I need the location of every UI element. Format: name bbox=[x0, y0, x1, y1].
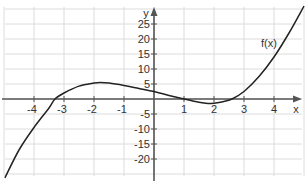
y-tick-label: 20 bbox=[138, 33, 150, 45]
y-tick-label: 15 bbox=[138, 48, 150, 60]
y-axis-arrow-icon bbox=[151, 7, 158, 16]
x-axis-label: x bbox=[293, 103, 299, 115]
x-tick-label: 3 bbox=[241, 103, 247, 115]
x-tick-label: -1 bbox=[117, 103, 127, 115]
curve-label: f(x) bbox=[261, 37, 277, 49]
x-axis-arrow-icon bbox=[293, 96, 302, 103]
y-tick-label: -10 bbox=[134, 123, 150, 135]
y-tick-label: -20 bbox=[134, 153, 150, 165]
y-tick-label: 5 bbox=[144, 78, 150, 90]
y-tick-label: -5 bbox=[140, 108, 150, 120]
x-tick-label: -3 bbox=[57, 103, 67, 115]
x-tick-label: 1 bbox=[181, 103, 187, 115]
x-tick-label: 2 bbox=[211, 103, 217, 115]
function-graph: x y -4-3-2-11234 252015105-5-10-15-20 f(… bbox=[0, 0, 306, 181]
y-tick-label: 25 bbox=[138, 18, 150, 30]
x-tick-label: 4 bbox=[271, 103, 277, 115]
x-tick-label: -2 bbox=[87, 103, 97, 115]
y-tick-label: -15 bbox=[134, 138, 150, 150]
y-tick-label: 10 bbox=[138, 63, 150, 75]
x-axis: x bbox=[2, 96, 302, 116]
x-tick-label: -4 bbox=[27, 103, 37, 115]
